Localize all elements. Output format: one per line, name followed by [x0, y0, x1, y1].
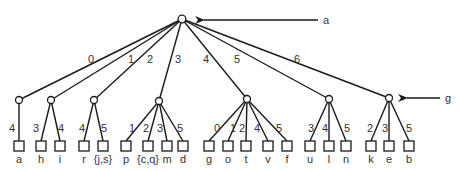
child-edge-label: 4 [58, 122, 64, 134]
root-edge-label: 1 [128, 53, 134, 65]
leaf-node [162, 141, 172, 151]
child-edge-label: 3 [157, 122, 163, 134]
child-edge-label: 4 [254, 122, 260, 134]
leaf-node [178, 141, 188, 151]
child-edge [247, 99, 287, 141]
leaf-label: k [368, 153, 374, 165]
child-edge-label: 5 [344, 122, 350, 134]
leaf-node [404, 141, 414, 151]
child-edge [371, 98, 389, 141]
child-edge [41, 100, 51, 141]
leaf-label: h [38, 153, 44, 165]
leaf-node [384, 141, 394, 151]
leaf-label: n [343, 153, 349, 165]
root-edge [94, 19, 182, 100]
leaf-label: {j,s} [94, 153, 113, 165]
root-edge-label: 5 [234, 53, 240, 65]
leaf-node [143, 141, 153, 151]
child-edge-label: 3 [33, 122, 39, 134]
child-edge-label: 0 [214, 122, 220, 134]
child-edge [94, 100, 103, 141]
leaf-node [79, 141, 89, 151]
child-edge [246, 99, 247, 141]
root-edge-label: 6 [294, 53, 300, 65]
child-edge-label: 1 [129, 122, 135, 134]
pointers: a g [204, 14, 451, 104]
leaf-node [223, 141, 233, 151]
leaf-label: v [265, 153, 271, 165]
trie-diagram: 0a41h3i42r4{j,s}53p1{c,q}2m3d54g0o1t2v4f… [0, 0, 461, 171]
leaf-node [14, 141, 24, 151]
internal-node [48, 97, 55, 104]
leaf-label: p [123, 153, 129, 165]
leaf-label: r [82, 153, 86, 165]
leaf-node [324, 141, 334, 151]
child-edge-label: 5 [406, 122, 412, 134]
child-edge-label: 5 [101, 122, 107, 134]
child-edge [310, 99, 329, 141]
leaf-label: {c,q} [137, 153, 159, 165]
child-edge-label: 5 [276, 122, 282, 134]
root-edge [19, 19, 182, 100]
internal-node [326, 96, 333, 103]
child-edge [228, 99, 247, 141]
leaf-node [204, 141, 214, 151]
child-edge [247, 99, 268, 141]
leaf-label: f [285, 153, 289, 165]
child-edge-label: 2 [367, 122, 373, 134]
leaf-label: m [162, 153, 171, 165]
leaf-label: l [328, 153, 330, 165]
child-edge-label: 5 [177, 122, 183, 134]
root-edge-label: 0 [88, 53, 94, 65]
pointer-g-label: g [445, 92, 451, 104]
leaf-label: t [244, 153, 247, 165]
child-edge-label: 2 [239, 122, 245, 134]
leaf-node [305, 141, 315, 151]
leaf-node [341, 141, 351, 151]
internal-node [156, 98, 163, 105]
root-edge-label: 4 [203, 53, 209, 65]
child-edge-label: 4 [9, 122, 15, 134]
leaf-node [121, 141, 131, 151]
child-edge [84, 100, 94, 141]
leaf-node [36, 141, 46, 151]
child-edge-label: 3 [308, 122, 314, 134]
leaf-label: a [16, 153, 23, 165]
leaf-node [263, 141, 273, 151]
child-edge [209, 99, 247, 141]
leaf-node [55, 141, 65, 151]
leaf-label: d [180, 153, 186, 165]
root-edge [182, 19, 389, 98]
leaf-label: b [406, 153, 412, 165]
root-edge-label: 3 [175, 53, 181, 65]
child-edge-label: 4 [322, 122, 328, 134]
leaf-label: o [225, 153, 231, 165]
child-edge [51, 100, 60, 141]
child-edge-label: 2 [143, 122, 149, 134]
child-edge-label: 3 [382, 122, 388, 134]
internal-node [244, 96, 251, 103]
internal-node [386, 95, 393, 102]
pointer-a-label: a [323, 14, 330, 26]
internal-node [91, 97, 98, 104]
leaf-node [366, 141, 376, 151]
child-edge-label: 4 [79, 122, 85, 134]
root-node [178, 15, 186, 23]
internal-node [16, 97, 23, 104]
leaf-node [241, 141, 251, 151]
root-edge-label: 2 [147, 53, 153, 65]
leaf-label: i [59, 153, 61, 165]
child-edge [329, 99, 346, 141]
leaf-label: u [307, 153, 313, 165]
leaf-label: e [386, 153, 392, 165]
leaf-label: g [206, 153, 212, 165]
child-edge [389, 98, 409, 141]
leaf-node [98, 141, 108, 151]
leaf-node [282, 141, 292, 151]
child-edge-label: 1 [230, 122, 236, 134]
